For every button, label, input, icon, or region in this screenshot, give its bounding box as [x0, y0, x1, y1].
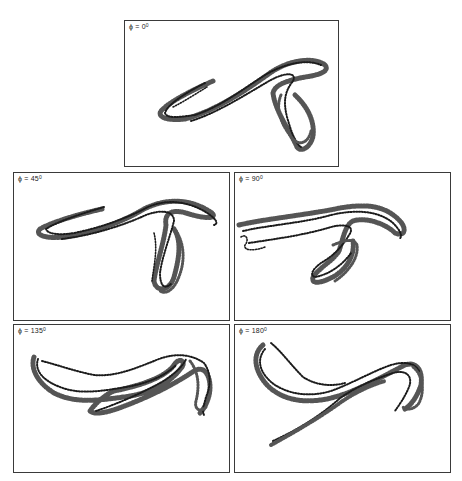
panel-phi-45: ϕ = 450	[13, 172, 230, 321]
attractor-plot-phi-135	[14, 325, 231, 474]
panel-phi-0: ϕ = 00	[124, 20, 339, 167]
attractor-plot-phi-180	[235, 325, 452, 474]
attractor-plot-phi-90	[235, 173, 452, 322]
attractor-plot-phi-45	[14, 173, 231, 322]
panel-phi-135: ϕ = 1350	[13, 324, 230, 473]
attractor-plot-phi-0	[125, 21, 340, 168]
panel-phi-180: ϕ = 1800	[234, 324, 451, 473]
panel-phi-90: ϕ = 900	[234, 172, 451, 321]
